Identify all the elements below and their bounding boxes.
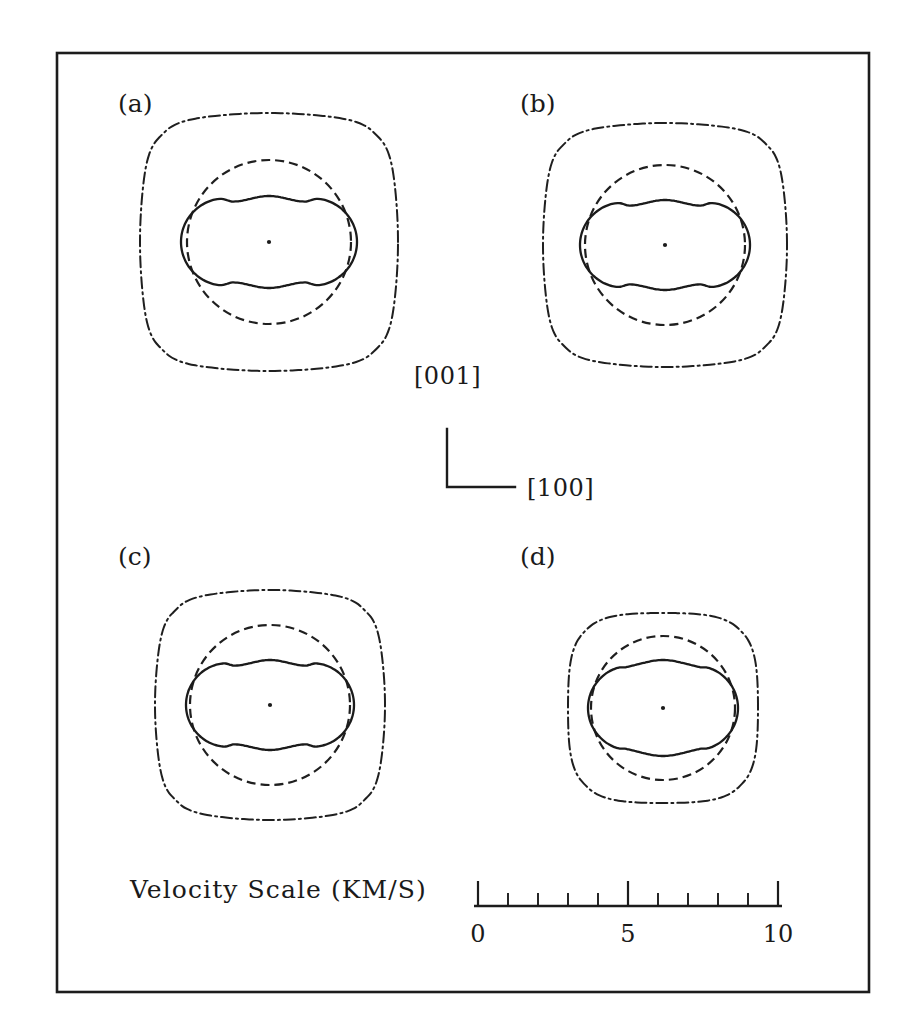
figure-border	[57, 53, 869, 992]
velocity-scale: Velocity Scale (KM/S) 0510	[129, 875, 793, 948]
scale-tick-label: 10	[763, 920, 794, 948]
velocity-anisotropy-figure: (a)(b)(c)(d) [001] [100] Velocity Scale …	[0, 0, 918, 1036]
scale-tick-label: 5	[620, 920, 635, 948]
velocity-scale-title: Velocity Scale (KM/S)	[129, 875, 427, 904]
panel-label: (b)	[520, 89, 556, 118]
axes-corner-arm	[447, 429, 515, 487]
panel-label: (d)	[520, 542, 556, 571]
panel-origin-dot	[663, 243, 667, 247]
panel-origin-dot	[268, 703, 272, 707]
panel-label: (c)	[118, 542, 152, 571]
panel-origin-dot	[661, 706, 665, 710]
panel-c: (c)	[118, 542, 385, 820]
axis-label-100: [100]	[527, 474, 594, 502]
panel-label: (a)	[118, 89, 152, 118]
figure-root: (a)(b)(c)(d) [001] [100] Velocity Scale …	[0, 0, 918, 1036]
panel-b: (b)	[520, 89, 787, 367]
panel-origin-dot	[267, 240, 271, 244]
scale-tick-label: 0	[470, 920, 485, 948]
crystal-axes-indicator: [001] [100]	[414, 362, 594, 502]
panel-a: (a)	[118, 89, 398, 371]
scale-ticks	[478, 881, 778, 906]
axis-label-001: [001]	[414, 362, 481, 390]
panel-d: (d)	[520, 542, 758, 803]
scale-tick-labels: 0510	[470, 920, 793, 948]
panels-group: (a)(b)(c)(d)	[118, 89, 787, 820]
